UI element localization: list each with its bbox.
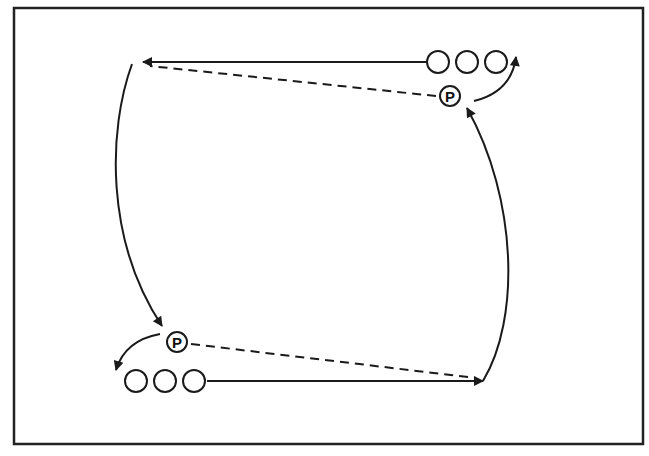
top-right-line: [427, 51, 507, 73]
drill-diagram: P P: [0, 0, 649, 456]
player-circle: [456, 51, 478, 73]
player-circle: [183, 370, 205, 392]
player-circle: [125, 370, 147, 392]
right-curve-run-arrow: [467, 108, 508, 381]
bottom-left-line: [125, 370, 205, 392]
bottom-passer-rotate-arrow: [116, 334, 160, 370]
bottom-pass-dashed: [191, 344, 476, 378]
bottom-passer: P: [167, 332, 187, 352]
field-border: [14, 8, 643, 444]
passer-label: P: [445, 88, 455, 105]
player-circle: [427, 51, 449, 73]
player-circle: [485, 51, 507, 73]
top-passer: P: [440, 86, 460, 106]
left-curve-run-arrow: [116, 64, 162, 326]
top-pass-dashed: [150, 66, 436, 96]
passer-label: P: [172, 334, 182, 351]
player-circle: [154, 370, 176, 392]
